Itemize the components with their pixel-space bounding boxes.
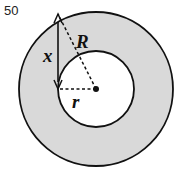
label-R: R — [75, 31, 89, 52]
label-x: x — [42, 45, 53, 66]
annulus-diagram: R x r — [0, 0, 180, 174]
center-dot — [93, 86, 99, 92]
label-r: r — [72, 91, 80, 112]
